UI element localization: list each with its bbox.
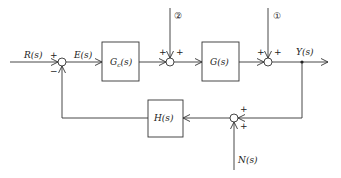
block-diagram: R(s) + − E(s) Gc(s) + + ② G(s) + + ① Y(s… — [0, 0, 341, 178]
sum2-left-plus-sign: + — [159, 47, 167, 57]
feedback-return-line — [62, 66, 148, 118]
sum1-minus-sign: − — [50, 66, 58, 76]
controller-label-arg: (s) — [121, 57, 133, 67]
sum2-top-plus-sign: + — [176, 47, 184, 57]
summing-junction-4 — [230, 114, 238, 122]
noise-label: N(s) — [237, 155, 258, 165]
plant-label: G(s) — [210, 57, 229, 67]
feedback-pickoff-line — [238, 62, 302, 118]
disturbance-2-label: ② — [174, 11, 182, 21]
controller-label-main: G — [110, 57, 117, 67]
input-label: R(s) — [23, 50, 43, 60]
sum4-right-plus-sign: + — [240, 104, 248, 114]
controller-label: Gc(s) — [110, 57, 133, 68]
sum3-top-plus-sign: + — [274, 47, 282, 57]
summing-junction-1 — [58, 58, 66, 66]
feedback-label: H(s) — [153, 113, 174, 123]
sum3-left-plus-sign: + — [257, 47, 265, 57]
branch-point — [300, 60, 303, 63]
output-label: Y(s) — [296, 47, 314, 57]
summing-junction-3 — [264, 58, 272, 66]
disturbance-1-label: ① — [273, 11, 281, 21]
sum4-bottom-plus-sign: + — [240, 121, 248, 131]
sum1-plus-sign: + — [50, 50, 58, 60]
summing-junction-2 — [166, 58, 174, 66]
error-label: E(s) — [73, 50, 93, 60]
